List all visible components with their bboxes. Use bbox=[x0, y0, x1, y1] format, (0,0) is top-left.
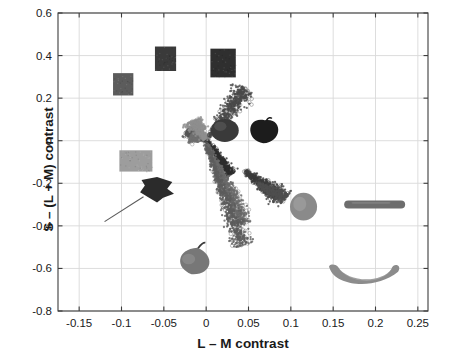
x-tick-label: -0.1 bbox=[98, 317, 146, 329]
scatter-plot-figure: S – (L + M) contrast L – M contrast 0.60… bbox=[0, 0, 450, 362]
y-tick-label: 0.4 bbox=[12, 50, 52, 62]
x-tick-label: 0.2 bbox=[352, 317, 400, 329]
x-tick-label: 0.15 bbox=[309, 317, 357, 329]
y-tick-label: 0.2 bbox=[12, 92, 52, 104]
x-tick-label: 0.25 bbox=[394, 317, 442, 329]
x-tick-label: 0.05 bbox=[225, 317, 273, 329]
x-axis-label: L – M contrast bbox=[58, 336, 428, 351]
y-tick-label: 0 bbox=[12, 135, 52, 147]
y-tick-label: -0.8 bbox=[12, 305, 52, 317]
tick-label-layer: S – (L + M) contrast L – M contrast 0.60… bbox=[0, 0, 450, 362]
y-tick-label: -0.4 bbox=[12, 220, 52, 232]
y-tick-label: 0.6 bbox=[12, 7, 52, 19]
y-tick-label: -0.6 bbox=[12, 262, 52, 274]
x-tick-label: -0.15 bbox=[55, 317, 103, 329]
x-tick-label: -0.05 bbox=[140, 317, 188, 329]
x-tick-label: 0 bbox=[182, 317, 230, 329]
x-tick-label: 0.1 bbox=[267, 317, 315, 329]
y-tick-label: -0.2 bbox=[12, 177, 52, 189]
